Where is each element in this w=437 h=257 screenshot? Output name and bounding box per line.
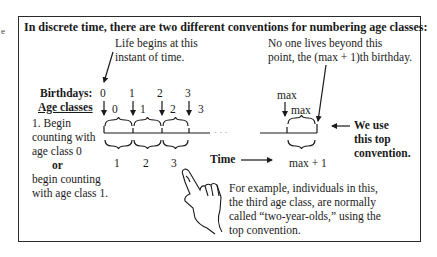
diagram-graphics [0,0,437,257]
life-begins-pointer-arrow [104,52,113,82]
bottom-brace-2 [134,140,161,149]
top-brace-0 [105,117,132,126]
bottom-brace-1 [105,140,132,149]
top-brace-2 [163,117,188,126]
top-brace-1 [134,117,161,126]
bottom-brace-3 [163,140,188,149]
bottom-brace-max-plus-one [288,140,315,149]
top-brace-max [288,115,315,124]
no-one-lives-pointer-arrow [318,65,326,121]
pointing-hand-icon [182,169,222,234]
